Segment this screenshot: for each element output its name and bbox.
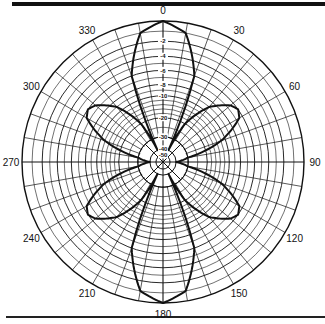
angle-label-210: 210 xyxy=(79,288,96,299)
radial-label: -30 xyxy=(159,134,168,140)
angle-label-240: 240 xyxy=(23,233,40,244)
angle-label-150: 150 xyxy=(231,288,248,299)
radial-label: -50 xyxy=(159,152,168,158)
polar-chart: 0306090120150180210240270300330-2-4-6-8-… xyxy=(0,0,325,324)
radial-label: -6 xyxy=(160,68,166,74)
angle-label-120: 120 xyxy=(286,233,303,244)
angle-label-60: 60 xyxy=(289,81,301,92)
angle-label-30: 30 xyxy=(233,25,245,36)
radial-label: -10 xyxy=(159,93,168,99)
radial-label: -20 xyxy=(159,115,168,121)
angle-label-90: 90 xyxy=(309,157,321,168)
angle-label-270: 270 xyxy=(3,157,20,168)
angle-label-180: 180 xyxy=(155,309,172,320)
radial-label: -2 xyxy=(160,38,166,44)
radial-label: -8 xyxy=(160,82,166,88)
polar-grid xyxy=(22,21,304,303)
angle-label-0: 0 xyxy=(160,5,166,16)
angle-label-300: 300 xyxy=(23,81,40,92)
angle-label-330: 330 xyxy=(79,25,96,36)
radial-label: -4 xyxy=(160,53,166,59)
